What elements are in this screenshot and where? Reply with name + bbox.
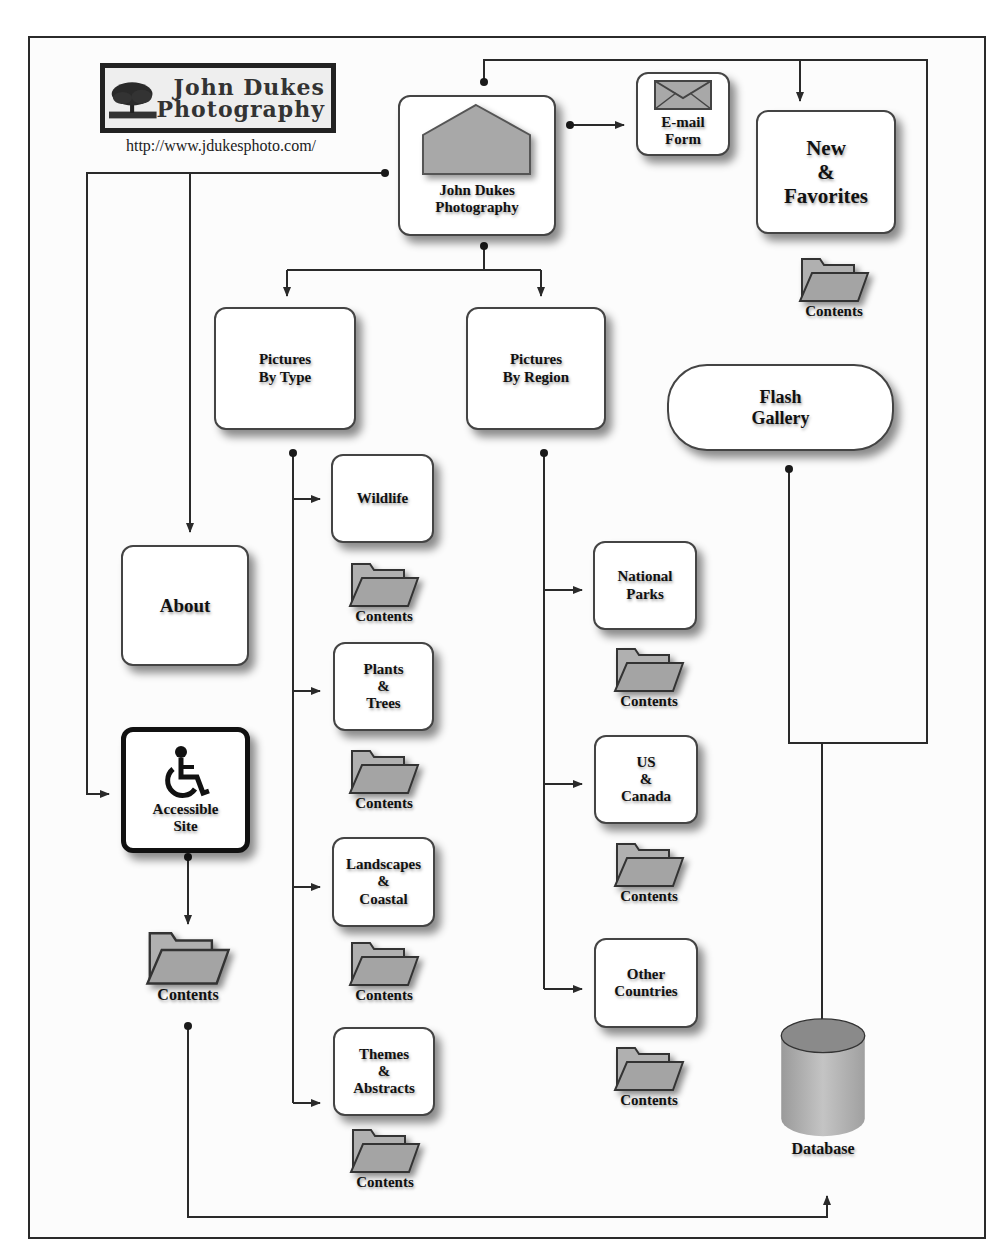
node-accessible-site-label: Accessible Site — [153, 801, 219, 836]
folder-us-canada[interactable]: Contents — [604, 838, 694, 905]
node-wildlife[interactable]: Wildlife — [331, 454, 434, 543]
folder-wildlife[interactable]: Contents — [339, 558, 429, 625]
folder-label: Contents — [356, 1174, 414, 1191]
house-icon — [420, 102, 534, 178]
node-national-parks-label: National Parks — [617, 568, 672, 603]
wheelchair-icon — [161, 745, 211, 801]
folder-label: Contents — [805, 303, 863, 320]
node-landscapes-coastal-label: Landscapes & Coastal — [346, 856, 421, 908]
node-plants-trees[interactable]: Plants & Trees — [333, 642, 434, 731]
node-new-favorites-label: New & Favorites — [784, 136, 868, 208]
node-home-label: John Dukes Photography — [435, 182, 518, 217]
node-pictures-by-region-label: Pictures By Region — [503, 351, 569, 386]
node-pictures-by-region[interactable]: Pictures By Region — [466, 307, 606, 430]
folder-label: Contents — [355, 795, 413, 812]
node-flash-gallery-label: Flash Gallery — [752, 387, 810, 428]
node-new-favorites[interactable]: New & Favorites — [756, 110, 896, 234]
node-us-canada[interactable]: US & Canada — [594, 735, 698, 824]
node-plants-trees-label: Plants & Trees — [363, 661, 403, 713]
folder-label: Contents — [620, 693, 678, 710]
folder-icon — [349, 1124, 421, 1174]
node-pictures-by-type-label: Pictures By Type — [259, 351, 311, 386]
node-wildlife-label: Wildlife — [357, 490, 408, 507]
folder-label: Contents — [620, 888, 678, 905]
envelope-icon — [654, 80, 712, 110]
folder-icon — [798, 253, 870, 303]
node-home[interactable]: John Dukes Photography — [398, 95, 556, 236]
folder-icon — [145, 926, 231, 986]
logo-line-2: Photography — [157, 98, 325, 120]
folder-icon — [348, 558, 420, 608]
database-cylinder-icon — [775, 1018, 871, 1138]
site-logo[interactable]: John Dukes Photography — [100, 63, 336, 133]
folder-new-favorites[interactable]: Contents — [789, 253, 879, 320]
folder-icon — [613, 643, 685, 693]
folder-icon — [348, 937, 420, 987]
folder-icon — [613, 838, 685, 888]
folder-label: Contents — [157, 986, 218, 1004]
folder-label: Contents — [355, 987, 413, 1004]
logo-text: John Dukes Photography — [157, 76, 331, 120]
node-other-countries-label: Other Countries — [614, 966, 677, 1001]
folder-label: Contents — [355, 608, 413, 625]
folder-icon — [348, 745, 420, 795]
node-national-parks[interactable]: National Parks — [593, 541, 697, 630]
node-us-canada-label: US & Canada — [621, 754, 671, 806]
folder-accessible-site[interactable]: Contents — [140, 926, 236, 1004]
logo-line-1: John Dukes — [157, 76, 325, 98]
folder-icon — [613, 1042, 685, 1092]
folder-themes-abstracts[interactable]: Contents — [340, 1124, 430, 1191]
node-email-form[interactable]: E-mail Form — [636, 72, 730, 156]
folder-plants-trees[interactable]: Contents — [339, 745, 429, 812]
node-flash-gallery[interactable]: Flash Gallery — [667, 364, 894, 451]
node-landscapes-coastal[interactable]: Landscapes & Coastal — [332, 837, 435, 927]
node-database[interactable]: Database — [775, 1018, 871, 1158]
node-database-label: Database — [791, 1140, 854, 1158]
node-about-label: About — [160, 595, 211, 617]
node-email-form-label: E-mail Form — [661, 114, 704, 149]
tree-icon — [109, 68, 157, 128]
node-pictures-by-type[interactable]: Pictures By Type — [214, 307, 356, 430]
site-url[interactable]: http://www.jdukesphoto.com/ — [96, 137, 346, 155]
folder-label: Contents — [620, 1092, 678, 1109]
node-themes-abstracts-label: Themes & Abstracts — [353, 1046, 415, 1098]
folder-national-parks[interactable]: Contents — [604, 643, 694, 710]
folder-landscapes-coastal[interactable]: Contents — [339, 937, 429, 1004]
node-themes-abstracts[interactable]: Themes & Abstracts — [333, 1027, 435, 1116]
folder-other-countries[interactable]: Contents — [604, 1042, 694, 1109]
node-about[interactable]: About — [121, 545, 249, 666]
node-accessible-site[interactable]: Accessible Site — [121, 727, 250, 853]
node-other-countries[interactable]: Other Countries — [594, 938, 698, 1028]
